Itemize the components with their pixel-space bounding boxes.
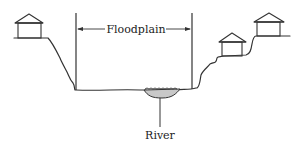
river-label: River [145, 129, 176, 142]
river-channel [144, 89, 180, 98]
house-icon [15, 14, 43, 38]
floodplain-label: Floodplain [106, 23, 165, 36]
arrow-left-icon [77, 27, 83, 31]
house-icon [219, 33, 246, 56]
floodplain-diagram: Floodplain River [0, 0, 298, 144]
arrow-right-icon [185, 27, 191, 31]
river-surface-icon [145, 88, 177, 89]
ground-profile [14, 36, 290, 90]
house-icon [254, 13, 284, 36]
